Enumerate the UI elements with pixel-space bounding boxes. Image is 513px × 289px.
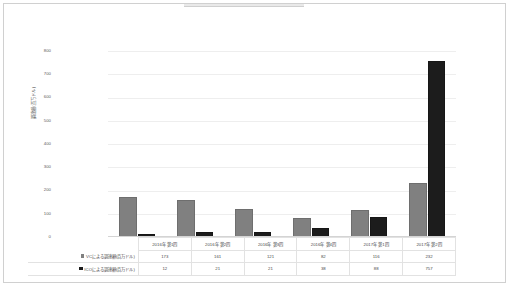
table-cell-value: 88	[350, 263, 403, 276]
plot-area	[108, 51, 456, 237]
table-row: VCによる調達額(百万ドル)17316112182116232	[28, 250, 456, 263]
bar-chart: 調達額(百万ドル) 8007006005004003002001000 2016…	[4, 4, 507, 284]
bar-group	[282, 51, 340, 237]
y-axis-tick-800: 800	[29, 49, 51, 53]
table-header-category: 2016年 第3四	[244, 238, 297, 251]
bar-group	[166, 51, 224, 237]
table-cell-value: 161	[191, 250, 244, 263]
table-header-category: 2016年 第2四	[191, 238, 244, 251]
table-row: ICOによる調達額(百万ドル)1221213888757	[28, 263, 456, 276]
document-frame: 調達額(百万ドル) 8007006005004003002001000 2016…	[3, 3, 506, 283]
bar-vc	[119, 197, 137, 237]
bar-vc	[409, 183, 427, 237]
bar-vc	[351, 210, 369, 237]
table-cell-value: 12	[138, 263, 191, 276]
table-header-category: 2016年 第4四	[297, 238, 350, 251]
y-axis-tick-200: 200	[29, 188, 51, 192]
bar-ico	[370, 217, 388, 237]
y-axis-tick-600: 600	[29, 95, 51, 99]
table-cell-value: 21	[244, 263, 297, 276]
bar-group	[340, 51, 398, 237]
bar-vc	[177, 200, 195, 237]
bar-group	[224, 51, 282, 237]
table-cell-value: 82	[297, 250, 350, 263]
table-cell-value: 232	[403, 250, 456, 263]
table-cell-value: 21	[191, 263, 244, 276]
bar-vc	[235, 209, 253, 237]
table-header-category: 2016年 第1四	[138, 238, 191, 251]
table-header-category: 2017年 第1四	[350, 238, 403, 251]
legend-swatch-icon	[81, 254, 84, 257]
data-table: 2016年 第1四2016年 第2四2016年 第3四2016年 第4四2017…	[28, 237, 456, 276]
bar-vc	[293, 218, 311, 237]
legend-item-vc: VCによる調達額(百万ドル)	[28, 250, 138, 263]
bar-ico	[428, 61, 446, 237]
bar-group	[398, 51, 456, 237]
y-axis-tick-400: 400	[29, 142, 51, 146]
bar-group	[108, 51, 166, 237]
legend-label: VCによる調達額(百万ドル)	[86, 254, 135, 259]
table-cell-value: 757	[403, 263, 456, 276]
y-axis-tick-300: 300	[29, 165, 51, 169]
y-axis-tick-100: 100	[29, 212, 51, 216]
table-cell-value: 173	[138, 250, 191, 263]
legend-swatch-icon	[79, 267, 82, 270]
legend-item-ico: ICOによる調達額(百万ドル)	[28, 263, 138, 276]
y-axis-tick-700: 700	[29, 72, 51, 76]
table-corner-cell	[28, 238, 138, 251]
table-header-category: 2017年 第2四	[403, 238, 456, 251]
table-row-categories: 2016年 第1四2016年 第2四2016年 第3四2016年 第4四2017…	[28, 238, 456, 251]
legend-label: ICOによる調達額(百万ドル)	[84, 267, 135, 272]
y-axis-tick-500: 500	[29, 119, 51, 123]
table-cell-value: 116	[350, 250, 403, 263]
table-cell-value: 38	[297, 263, 350, 276]
table-cell-value: 121	[244, 250, 297, 263]
